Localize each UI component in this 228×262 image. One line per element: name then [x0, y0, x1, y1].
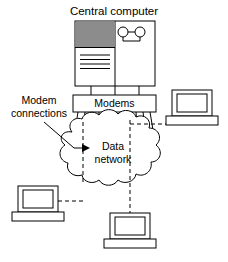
data-network-cloud: Data network	[60, 110, 160, 186]
network-diagram-canvas: Central computer	[0, 0, 228, 262]
terminal-left-screen	[23, 190, 53, 208]
central-computer	[75, 21, 155, 86]
terminal-bottom	[104, 213, 156, 248]
modem-connections-label-line2: connections	[11, 107, 67, 119]
modems-box: Modems	[73, 95, 156, 112]
cloud-label-line1: Data	[102, 140, 124, 152]
network-diagram: Central computer	[0, 0, 228, 262]
terminal-right-base	[166, 116, 218, 125]
cloud-label-line2: network	[95, 153, 133, 165]
terminal-left-base	[12, 212, 64, 221]
page-title: Central computer	[70, 5, 158, 17]
terminal-left	[12, 186, 64, 221]
terminal-bottom-base	[104, 239, 156, 248]
modem-connections-label-line1: Modem	[21, 94, 56, 106]
computer-to-modems-links	[91, 86, 139, 95]
terminal-right-screen	[177, 94, 207, 112]
terminal-right	[166, 90, 218, 125]
modems-box-label: Modems	[94, 97, 134, 109]
cabinet-shaded-panel	[76, 22, 116, 48]
terminal-bottom-screen	[115, 217, 145, 235]
